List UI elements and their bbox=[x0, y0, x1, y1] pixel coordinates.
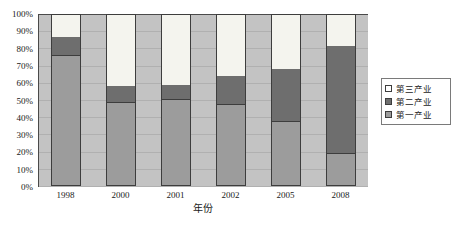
x-axis: 199820002001200220052008 bbox=[38, 189, 368, 203]
x-axis-tick-label: 2008 bbox=[318, 189, 364, 203]
x-axis-tick-label: 1998 bbox=[43, 189, 89, 203]
x-axis-tick-label: 2005 bbox=[263, 189, 309, 203]
legend-item[interactable]: 第一产业 bbox=[385, 108, 446, 121]
bar-segment[interactable] bbox=[217, 76, 245, 105]
legend-item-label: 第一产业 bbox=[396, 110, 432, 120]
legend-swatch-secondary-icon bbox=[385, 98, 392, 105]
y-axis-tick-label: 60% bbox=[0, 79, 33, 88]
bar-column[interactable] bbox=[326, 14, 356, 186]
bar-segment[interactable] bbox=[162, 15, 190, 85]
bar-stack[interactable] bbox=[326, 14, 356, 186]
legend-item-label: 第二产业 bbox=[396, 97, 432, 107]
bar-column[interactable] bbox=[161, 14, 191, 186]
bar-column[interactable] bbox=[216, 14, 246, 186]
bar-segment[interactable] bbox=[327, 15, 355, 46]
gridline bbox=[39, 186, 368, 187]
bar-segment[interactable] bbox=[52, 15, 80, 37]
bar-stack[interactable] bbox=[271, 14, 301, 186]
bar-stack[interactable] bbox=[106, 14, 136, 186]
y-axis-tick-label: 10% bbox=[0, 165, 33, 174]
bar-segment[interactable] bbox=[107, 86, 135, 103]
bar-segment[interactable] bbox=[272, 122, 300, 185]
bar-segment[interactable] bbox=[52, 37, 80, 56]
y-axis-tick-label: 70% bbox=[0, 61, 33, 70]
bar-segment[interactable] bbox=[162, 85, 190, 100]
bar-column[interactable] bbox=[271, 14, 301, 186]
bar-stack[interactable] bbox=[216, 14, 246, 186]
x-axis-tick-label: 2001 bbox=[153, 189, 199, 203]
bar-segment[interactable] bbox=[107, 15, 135, 86]
y-axis-tick-label: 90% bbox=[0, 27, 33, 36]
bar-segment[interactable] bbox=[217, 105, 245, 185]
y-axis-tick-label: 30% bbox=[0, 131, 33, 140]
bars-layer bbox=[39, 14, 368, 186]
bar-column[interactable] bbox=[51, 14, 81, 186]
bar-stack[interactable] bbox=[161, 14, 191, 186]
bar-segment[interactable] bbox=[162, 100, 190, 185]
bar-column[interactable] bbox=[106, 14, 136, 186]
stacked-bar-chart: 0%10%20%30%40%50%60%70%80%90%100% 199820… bbox=[0, 0, 459, 232]
y-axis-tick-label: 20% bbox=[0, 148, 33, 157]
bar-segment[interactable] bbox=[327, 46, 355, 155]
bar-segment[interactable] bbox=[107, 103, 135, 185]
y-axis-tick-label: 100% bbox=[0, 10, 33, 19]
legend-swatch-tertiary-icon bbox=[385, 85, 392, 92]
y-axis-tick-label: 40% bbox=[0, 113, 33, 122]
y-axis-tick-label: 80% bbox=[0, 44, 33, 53]
bar-segment[interactable] bbox=[327, 154, 355, 185]
bar-segment[interactable] bbox=[52, 56, 80, 185]
y-axis: 0%10%20%30%40%50%60%70%80%90%100% bbox=[0, 14, 36, 187]
legend-swatch-primary-icon bbox=[385, 111, 392, 118]
chart-legend: 第三产业第二产业第一产业 bbox=[381, 78, 451, 125]
legend-item[interactable]: 第二产业 bbox=[385, 95, 446, 108]
legend-item[interactable]: 第三产业 bbox=[385, 82, 446, 95]
bar-segment[interactable] bbox=[272, 15, 300, 69]
bar-segment[interactable] bbox=[217, 15, 245, 76]
bar-segment[interactable] bbox=[272, 69, 300, 122]
y-axis-tick-label: 0% bbox=[0, 183, 33, 192]
x-axis-tick-label: 2002 bbox=[208, 189, 254, 203]
legend-item-label: 第三产业 bbox=[396, 84, 432, 94]
plot-area bbox=[38, 14, 368, 187]
x-axis-title: 年份 bbox=[38, 203, 368, 215]
y-axis-tick-label: 50% bbox=[0, 96, 33, 105]
x-axis-tick-label: 2000 bbox=[98, 189, 144, 203]
bar-stack[interactable] bbox=[51, 14, 81, 186]
